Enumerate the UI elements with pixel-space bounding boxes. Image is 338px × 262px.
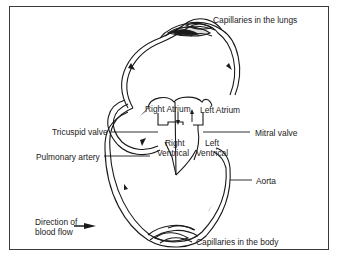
label-direction-2: blood flow — [35, 228, 73, 236]
label-capillaries-lungs: Capillaries in the lungs — [213, 16, 297, 24]
label-tricuspid-valve: Tricuspid valve — [52, 128, 108, 136]
label-right-ventrical-2: Ventrical — [157, 149, 189, 157]
arrow-icon — [140, 138, 146, 146]
label-left-atrium: Left Atrium — [200, 106, 240, 114]
label-direction-1: Direction of — [35, 218, 77, 226]
label-left-ventrical-1: Left — [205, 139, 219, 147]
label-right-ventrical-1: Right — [165, 139, 185, 147]
label-left-ventrical-2: Ventrical — [196, 149, 228, 157]
label-capillaries-body: Capillaries in the body — [196, 238, 278, 246]
arrow-icon — [226, 63, 232, 70]
arrow-icon — [208, 204, 213, 212]
arrow-icon — [124, 184, 128, 190]
label-mitral-valve: Mitral valve — [255, 129, 297, 137]
body-capillaries-icon — [148, 225, 198, 243]
label-aorta: Aorta — [256, 177, 276, 185]
label-right-atrium: Right Atrium — [145, 105, 191, 113]
label-pulmonary-artery: Pulmonary artery — [36, 153, 100, 161]
